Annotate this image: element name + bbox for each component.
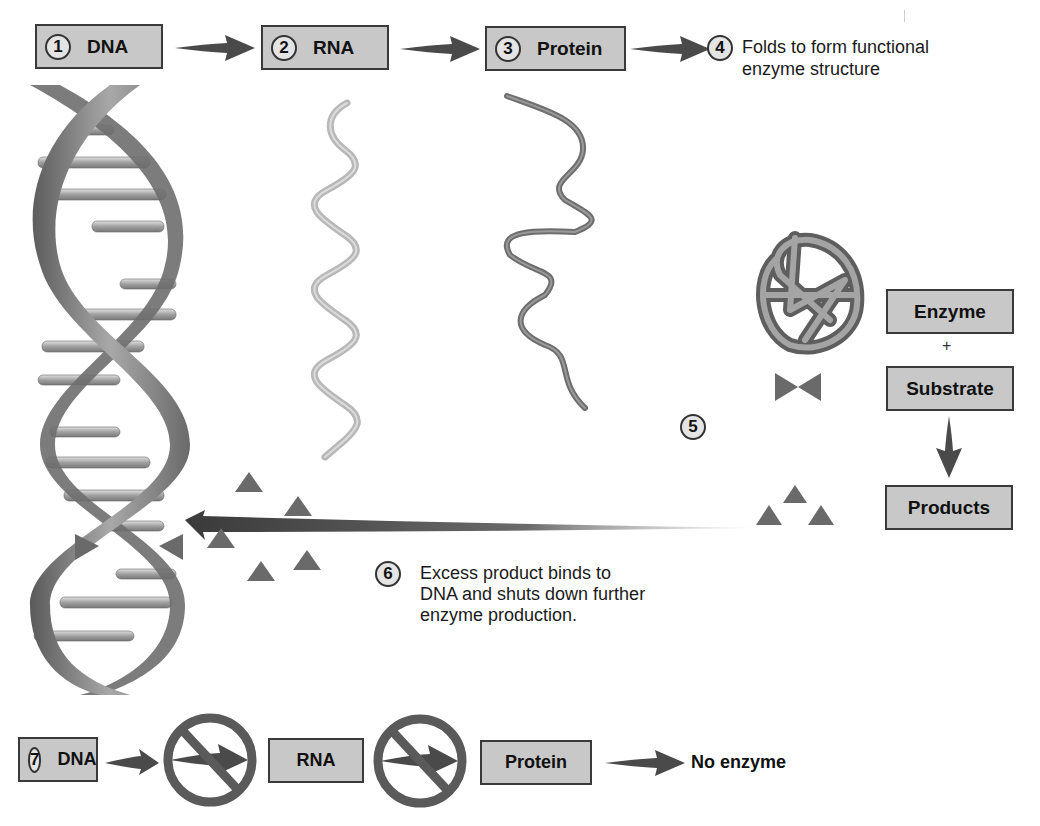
folded-enzyme-illustration — [745, 220, 875, 360]
arrow-right-icon — [605, 750, 685, 776]
substrate-label: Substrate — [906, 378, 994, 400]
prohibited-transcription-icon — [105, 713, 161, 809]
step4-line2: enzyme structure — [742, 58, 929, 80]
dna-helix-illustration — [20, 85, 180, 695]
substrate-icon — [775, 373, 821, 401]
arrow-right-icon — [400, 36, 480, 62]
step4-caption: Folds to form functional enzyme structur… — [742, 36, 929, 80]
feedback-line2: DNA and shuts down further — [420, 584, 645, 605]
feedback-line1: Excess product binds to — [420, 563, 645, 584]
rna-strand-illustration — [305, 95, 365, 465]
substrate-box: Substrate — [886, 366, 1014, 411]
decorative-tick — [904, 10, 905, 22]
step-number-5: 5 — [680, 414, 706, 440]
arrow-right-icon — [630, 36, 710, 62]
plus-sign: + — [942, 337, 951, 355]
protein-strand-illustration — [495, 90, 605, 420]
dna-label: DNA — [87, 36, 128, 58]
step-number-4: 4 — [707, 35, 733, 61]
protein-label: Protein — [537, 38, 602, 60]
bottom-rna-box: RNA — [268, 738, 364, 783]
step-number-3: 3 — [495, 36, 521, 62]
product-bound-to-dna-icon — [75, 532, 185, 562]
step2-rna-box: 2 RNA — [261, 25, 389, 70]
bottom-dna-label: DNA — [57, 749, 96, 770]
step-number-6: 6 — [375, 561, 401, 587]
no-symbol-icon — [160, 710, 260, 810]
feedback-caption: Excess product binds to DNA and shuts do… — [420, 563, 645, 626]
arrow-right-icon — [175, 35, 255, 61]
step-number-2: 2 — [271, 35, 297, 61]
rna-label: RNA — [313, 37, 354, 59]
step-number-1: 1 — [45, 34, 71, 60]
step3-protein-box: 3 Protein — [485, 26, 626, 71]
bottom-protein-label: Protein — [505, 752, 567, 773]
bottom-rna-label: RNA — [297, 750, 336, 771]
no-enzyme-label: No enzyme — [691, 752, 786, 773]
excess-product-molecules-icon — [205, 470, 335, 585]
step1-dna-box: 1 DNA — [35, 24, 163, 69]
step7-dna-box: 7 DNA — [18, 737, 98, 782]
step4-line1: Folds to form functional — [742, 36, 929, 58]
bottom-protein-box: Protein — [480, 740, 592, 785]
no-symbol-icon — [370, 711, 470, 811]
step-number-7: 7 — [28, 747, 41, 773]
products-box: Products — [885, 485, 1013, 530]
feedback-line3: enzyme production. — [420, 605, 645, 626]
products-label: Products — [908, 497, 990, 519]
enzyme-label: Enzyme — [914, 301, 986, 323]
arrow-down-icon — [934, 416, 964, 478]
enzyme-box: Enzyme — [886, 289, 1014, 334]
product-molecules-icon — [755, 485, 835, 529]
